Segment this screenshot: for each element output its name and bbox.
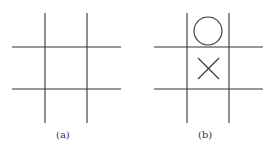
grid-b [154,13,263,123]
o-mark-icon [194,17,222,45]
panel-b-label: (b) [198,129,212,141]
panel-a-label: (a) [56,129,70,141]
tic-tac-toe-diagram [0,0,272,151]
grid-a [12,13,121,123]
